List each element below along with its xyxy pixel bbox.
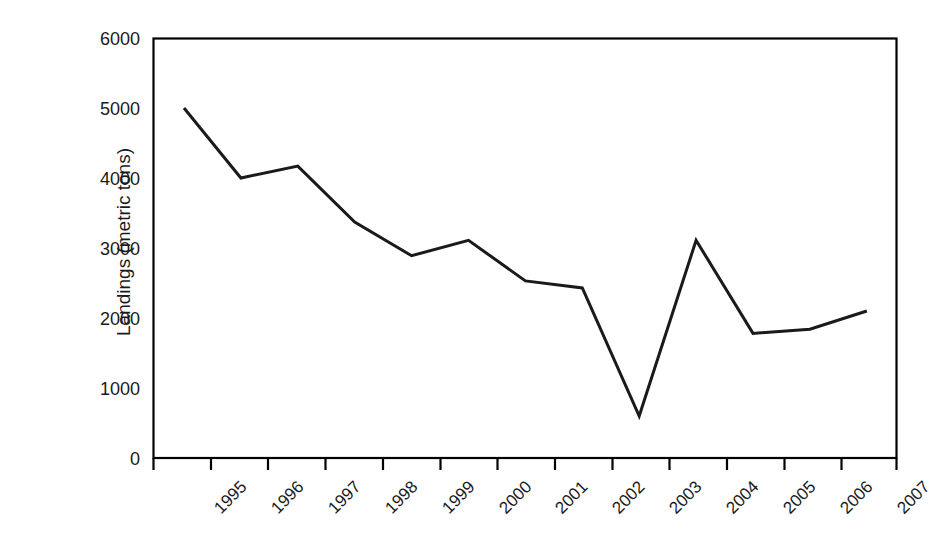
x-tick-label: 1997: [325, 478, 364, 517]
x-tick-label: 1995: [211, 478, 250, 517]
x-tick-label: 2004: [723, 478, 762, 517]
x-tick-label: 2007: [894, 478, 932, 517]
x-tick-label: 2002: [609, 478, 648, 517]
x-tick-label: 2006: [837, 478, 876, 517]
x-tick-label: 2000: [496, 478, 535, 517]
x-tick-label: 2003: [666, 478, 705, 517]
x-tick-label: 2001: [552, 478, 591, 517]
x-tick-label: 1998: [382, 478, 421, 517]
x-tick-label: 1996: [268, 478, 307, 517]
x-tick-label: 2005: [780, 478, 819, 517]
x-tick-label: 1999: [439, 478, 478, 517]
